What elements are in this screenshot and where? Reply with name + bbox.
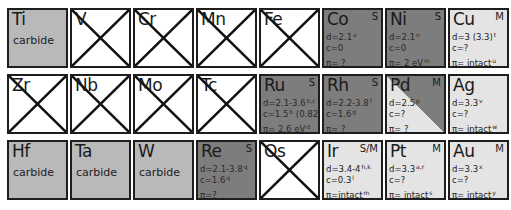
element-symbol: Os — [264, 141, 285, 161]
pi-value: π= 2.6 eV — [263, 124, 305, 134]
d-ref: a — [353, 31, 357, 38]
property-lines: d=3.3a,r c=? π= intacts — [389, 164, 432, 200]
pi-ref: u — [492, 57, 496, 64]
element-symbol: Co — [327, 9, 348, 29]
element-symbol: Hf — [12, 141, 30, 161]
element-symbol: Ni — [390, 9, 406, 29]
pi-value: π=intact — [326, 190, 363, 200]
pi-ref: m — [424, 57, 430, 64]
element-symbol: Rh — [327, 75, 349, 95]
pi-value: π= ? — [326, 58, 345, 68]
pi-ref: m — [364, 189, 370, 196]
element-symbol: Ta — [75, 141, 92, 161]
element-symbol: Nb — [75, 75, 98, 95]
d-ref: h,k — [362, 163, 371, 170]
type-tag: S/M — [360, 143, 378, 154]
cell-zr: Zr — [7, 74, 68, 134]
element-symbol: Mn — [201, 9, 225, 29]
pi-value: π= intact — [389, 190, 428, 200]
c-alt-value: (0.82 — [293, 109, 318, 119]
cell-hf: Hf carbide — [7, 140, 68, 200]
cell-ta: Ta carbide — [70, 140, 131, 200]
cell-mo: Mo — [133, 74, 194, 134]
type-tag: S — [372, 11, 378, 22]
cell-tc: Tc — [196, 74, 257, 134]
c-value: c=1.5 — [263, 109, 288, 119]
element-symbol: Cr — [138, 9, 156, 29]
c-ref: q — [226, 174, 230, 181]
element-symbol: Ir — [327, 141, 338, 161]
type-tag: M — [432, 143, 441, 154]
element-symbol: Fe — [264, 9, 282, 29]
element-symbol: Ru — [264, 75, 285, 95]
cell-cu: Cu M d=3 (3.3)t c=? π= intactu — [448, 8, 509, 68]
d-value: d=3.3 — [452, 164, 478, 174]
d-value: d=2.1 — [389, 32, 415, 42]
d-ref: q — [244, 163, 248, 170]
property-lines: d=2.1-3.6b,c c=1.5b (0.82c) π= 2.6 eVd — [263, 98, 320, 134]
element-symbol: Pd — [390, 75, 410, 95]
d-ref: a,r — [416, 163, 424, 170]
type-tag: M — [495, 11, 504, 22]
d-ref: n — [416, 31, 420, 38]
cell-cr: Cr — [133, 8, 194, 68]
type-tag: S — [309, 77, 315, 88]
cell-fe: Fe — [259, 8, 320, 68]
d-value: d=3 (3.3) — [452, 32, 493, 42]
pi-ref: y — [492, 189, 496, 196]
element-symbol: Mo — [138, 75, 162, 95]
property-lines: d=3.3v c=? π= intactw — [452, 98, 497, 134]
element-symbol: Au — [453, 141, 474, 161]
type-tag: M — [432, 77, 441, 88]
d-value: d=2.5 — [389, 98, 415, 108]
pi-value: π= ? — [326, 124, 345, 134]
d-value: d=2.1-3.8 — [200, 164, 243, 174]
pi-value: π= ? — [389, 124, 408, 134]
cell-v: V — [70, 8, 131, 68]
element-symbol: W — [138, 141, 154, 161]
cell-pd: Pd M d=2.5p c=? π= ? — [385, 74, 446, 134]
element-symbol: V — [75, 9, 86, 29]
type-tag: S — [246, 143, 252, 154]
c-value: c=? — [389, 175, 405, 185]
c-ref: b — [289, 108, 293, 115]
cell-note: carbide — [76, 166, 117, 179]
pi-value: π= 2 eV — [389, 58, 423, 68]
cell-ir: Ir S/M d=3.4-4h,k c=0.3l π=intactm — [322, 140, 383, 200]
property-lines: d=3 (3.3)t c=? π= intactu — [452, 32, 496, 68]
property-lines: d=2.2-3.8f c=1.6g π= ? — [326, 98, 372, 134]
c-value: c=? — [452, 109, 468, 119]
d-value: d=3.4-4 — [326, 164, 361, 174]
pi-value: π= intact — [452, 124, 491, 134]
d-value: d=2.1 — [326, 32, 352, 42]
cell-ti: Ti carbide — [7, 8, 68, 68]
cell-mn: Mn — [196, 8, 257, 68]
cell-au: Au M d=3.3x c=? π= intacty — [448, 140, 509, 200]
property-lines: d=2.1-3.8q c=1.6q π=? — [200, 164, 247, 200]
cell-w: W carbide — [133, 140, 194, 200]
c-value: c=0 — [326, 43, 343, 53]
c-ref: l — [352, 174, 354, 181]
pi-value: π= intact — [452, 190, 491, 200]
c-ref: g — [352, 108, 356, 115]
element-grid: Ti carbide V Cr Mn Fe Co S d=2.1a c=0 π=… — [7, 8, 509, 200]
pi-value: π= intact — [452, 58, 491, 68]
cell-nb: Nb — [70, 74, 131, 134]
property-lines: d=3.3x c=? π= intacty — [452, 164, 496, 200]
type-tag: S — [372, 77, 378, 88]
cell-os: Os — [259, 140, 320, 200]
c-value: c=0.3 — [326, 175, 351, 185]
cell-rh: Rh S d=2.2-3.8f c=1.6g π= ? — [322, 74, 383, 134]
c-value: c=1.6 — [326, 109, 351, 119]
cell-ni: Ni S d=2.1n c=0 π= 2 eVm — [385, 8, 446, 68]
d-ref: x — [479, 163, 483, 170]
d-ref: b,c — [307, 97, 316, 104]
pi-ref: s — [429, 189, 432, 196]
cell-note: carbide — [13, 34, 54, 47]
cell-note: carbide — [139, 166, 180, 179]
d-value: d=2.1-3.6 — [263, 98, 306, 108]
c-value: c=? — [389, 109, 405, 119]
pi-ref: w — [492, 123, 497, 130]
cell-ru: Ru S d=2.1-3.6b,c c=1.5b (0.82c) π= 2.6 … — [259, 74, 320, 134]
d-ref: f — [370, 97, 372, 104]
